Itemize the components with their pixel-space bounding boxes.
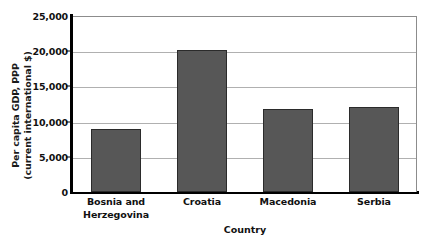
x-axis-tick-label-line: Croatia — [159, 196, 245, 209]
x-axis-tick-label: Croatia — [159, 196, 245, 209]
bar — [177, 50, 227, 192]
bars-layer — [73, 16, 417, 192]
x-axis-tick-label: Serbia — [331, 196, 417, 209]
y-axis-tick-label: 0 — [20, 187, 68, 198]
y-axis-tick-label: 25,000 — [20, 11, 68, 22]
y-axis-tick-label: 20,000 — [20, 46, 68, 57]
bar-chart: Per capita GDP, PPP (current internation… — [0, 0, 430, 244]
x-axis-tick-label: Bosnia andHerzegovina — [73, 196, 159, 221]
x-axis-tick-label: Macedonia — [245, 196, 331, 209]
x-axis-tick-label-line: Bosnia and — [73, 196, 159, 209]
y-axis-tick-label: 10,000 — [20, 116, 68, 127]
y-axis-tick-label: 5,000 — [20, 151, 68, 162]
bar — [349, 107, 399, 192]
y-axis-tick-label: 15,000 — [20, 81, 68, 92]
x-axis-tick-label-line: Herzegovina — [73, 209, 159, 222]
x-axis-tick-label-line: Macedonia — [245, 196, 331, 209]
x-axis-title: Country — [73, 224, 417, 235]
bar — [91, 129, 141, 192]
y-axis-tick-labels: 05,00010,00015,00020,00025,000 — [20, 0, 68, 244]
bar — [263, 109, 313, 192]
x-axis-tick-label-line: Serbia — [331, 196, 417, 209]
